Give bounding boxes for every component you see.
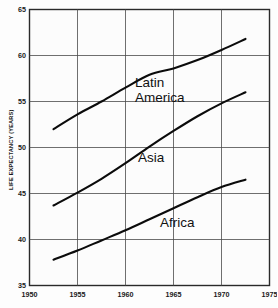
y-tick-45: 45 (18, 189, 26, 198)
y-tick-40: 40 (18, 235, 26, 244)
x-tick-1960: 1960 (118, 290, 134, 299)
series-label-america: America (135, 90, 185, 105)
y-tick-65: 65 (18, 5, 26, 14)
chart-canvas: 35404550556065 195019551960196519701975 … (0, 0, 277, 308)
x-tick-1975: 1975 (262, 290, 278, 299)
y-tick-60: 60 (18, 51, 26, 60)
y-tick-55: 55 (18, 97, 26, 106)
x-tick-1970: 1970 (214, 290, 230, 299)
series-label-asia: Asia (138, 150, 165, 165)
y-tick-50: 50 (18, 143, 26, 152)
x-tick-1950: 1950 (22, 290, 38, 299)
y-axis-tick-labels: 35404550556065 (18, 5, 26, 290)
series-label-latin: Latin (135, 75, 164, 90)
x-tick-1955: 1955 (70, 290, 86, 299)
life-expectancy-chart: 35404550556065 195019551960196519701975 … (0, 0, 277, 308)
x-tick-1965: 1965 (166, 290, 182, 299)
y-axis-title: LIFE EXPECTANCY (YEARS) (8, 109, 14, 190)
x-axis-tick-labels: 195019551960196519701975 (22, 290, 278, 299)
y-tick-35: 35 (18, 281, 26, 290)
series-label-africa: Africa (160, 215, 195, 230)
